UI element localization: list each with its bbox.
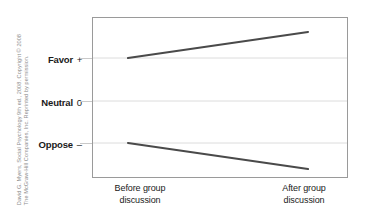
y-tick-neutral-symbol: 0: [73, 97, 86, 109]
series-line-favoring-group: [128, 32, 308, 58]
y-tick-oppose-label: Oppose: [39, 139, 73, 150]
plot-area: [92, 17, 348, 178]
y-tick-oppose-symbol: –: [73, 139, 86, 151]
x-tick-after-group-discussion: After group discussion: [262, 183, 346, 206]
y-tick-neutral-label: Neutral: [41, 97, 73, 108]
y-tick-favor-label: Favor: [48, 54, 73, 65]
y-tick-oppose: Oppose–: [39, 137, 86, 149]
x-tick-after-line-1: After group: [262, 183, 346, 195]
y-tick-favor-symbol: +: [73, 54, 86, 66]
series-line-opposing-group: [128, 143, 308, 169]
x-tick-before-line-1: Before group: [98, 183, 182, 195]
y-axis-labels: Favor+ Neutral0 Oppose–: [0, 17, 92, 178]
group-polarization-line-chart: [93, 18, 347, 177]
x-tick-after-line-2: discussion: [262, 195, 346, 207]
x-tick-before-line-2: discussion: [98, 195, 182, 207]
x-tick-before-group-discussion: Before group discussion: [98, 183, 182, 206]
